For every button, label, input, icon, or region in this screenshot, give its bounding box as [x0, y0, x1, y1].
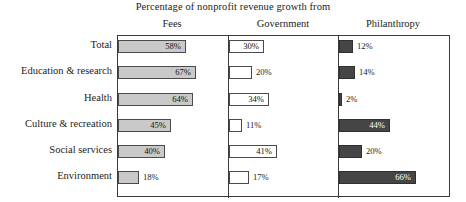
bar-value-label: 66%: [339, 171, 411, 184]
column-header-philanthropy: Philanthropy: [328, 18, 458, 29]
category-label: Environment: [0, 170, 112, 181]
bar-value-label: 18%: [143, 171, 159, 184]
bar-value-label: 20%: [366, 145, 382, 158]
chart-figure: Percentage of nonprofit revenue growth f…: [0, 0, 466, 202]
bar-value-label: 40%: [118, 145, 160, 158]
bar-philanthropy-row-0: [339, 40, 353, 53]
category-label: Health: [0, 92, 112, 103]
bar-value-label: 11%: [246, 119, 261, 132]
bar-value-label: 41%: [229, 145, 272, 158]
bar-value-label: 34%: [229, 93, 264, 106]
bar-philanthropy-row-4: [339, 145, 362, 158]
bar-value-label: 64%: [118, 93, 188, 106]
bar-government-row-3: [229, 119, 242, 132]
bar-value-label: 14%: [359, 66, 375, 79]
category-label: Education & research: [0, 65, 112, 76]
category-label: Total: [0, 39, 112, 50]
category-label: Social services: [0, 144, 112, 155]
bar-fees-row-5: [118, 171, 139, 184]
bar-value-label: 58%: [118, 40, 181, 53]
bar-government-row-1: [229, 66, 252, 79]
bar-value-label: 2%: [346, 93, 357, 106]
chart-title: Percentage of nonprofit revenue growth f…: [0, 1, 466, 12]
bar-value-label: 67%: [118, 66, 191, 79]
bar-value-label: 30%: [229, 40, 259, 53]
bar-value-label: 45%: [118, 119, 166, 132]
bar-value-label: 12%: [357, 40, 373, 53]
bar-philanthropy-row-1: [339, 66, 355, 79]
bar-value-label: 44%: [339, 119, 385, 132]
bar-value-label: 17%: [253, 171, 269, 184]
bar-government-row-5: [229, 171, 249, 184]
bar-philanthropy-row-2: [339, 93, 342, 106]
bar-value-label: 20%: [256, 66, 272, 79]
category-label: Culture & recreation: [0, 118, 112, 129]
